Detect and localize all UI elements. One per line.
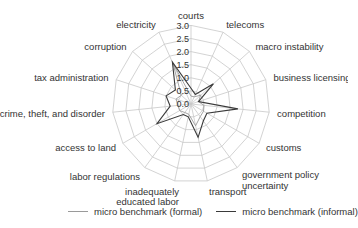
series-informal-line (157, 62, 238, 137)
legend-item-formal: micro benchmark (formal) (68, 206, 202, 217)
legend: micro benchmark (formal) micro benchmark… (68, 206, 358, 217)
legend-swatch-formal (68, 211, 88, 212)
legend-label-formal: micro benchmark (formal) (94, 206, 202, 217)
legend-label-informal: micro benchmark (informal) (242, 206, 358, 217)
axis-label-customs: customs (266, 142, 302, 153)
axis-label-labor-regulations: labor regulations (70, 171, 140, 182)
tick-label: 3.0 (176, 21, 189, 31)
grid-spoke (191, 32, 223, 104)
axis-label-business-licensing: business licensing (273, 72, 348, 83)
axis-label-inadequately-educated-labor: inadequatelyeducated labor (116, 186, 179, 205)
axis-label-electricity: electricity (116, 19, 156, 30)
axis-label-crime-theft-and-disorder: crime, theft, and disorder (0, 108, 105, 119)
grid-spoke (191, 80, 266, 104)
axis-label-transport: transport (209, 186, 247, 197)
axis-label-access-to-land: access to land (55, 142, 116, 153)
axis-label-competition: competition (277, 108, 326, 119)
tick-label: 2.5 (176, 34, 189, 44)
radial-tick-labels: 0.00.51.01.52.02.53.0 (176, 21, 189, 110)
axis-label-macro-instability: macro instability (255, 41, 323, 52)
axis-label-courts: courts (178, 10, 204, 21)
tick-label: 0.5 (176, 86, 189, 96)
axis-labels: courtstelecomsmacro instabilitybusiness … (0, 10, 348, 205)
radar-chart: 0.00.51.01.52.02.53.0 courtstelecomsmacr… (0, 0, 348, 205)
radar-series (157, 62, 238, 137)
grid-spoke (191, 51, 249, 104)
tick-label: 0.0 (176, 99, 189, 109)
legend-item-informal: micro benchmark (informal) (216, 206, 358, 217)
tick-label: 2.0 (176, 47, 189, 57)
axis-label-corruption: corruption (84, 41, 126, 52)
axis-label-telecoms: telecoms (226, 19, 264, 30)
axis-label-tax-administration: tax administration (34, 72, 108, 83)
tick-label: 1.5 (176, 60, 189, 70)
tick-label: 1.0 (176, 73, 189, 83)
axis-label-government-policy-uncertainty: government policyuncertainty (242, 169, 319, 191)
legend-swatch-informal (216, 211, 236, 212)
